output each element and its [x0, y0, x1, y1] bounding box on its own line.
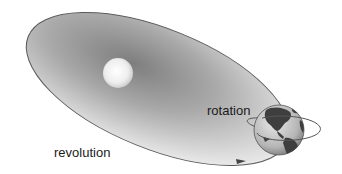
- sun-icon: [103, 58, 133, 88]
- orbit-diagram: rotation revolution: [0, 0, 342, 174]
- rotation-label: rotation: [207, 103, 250, 118]
- revolution-label: revolution: [54, 145, 110, 160]
